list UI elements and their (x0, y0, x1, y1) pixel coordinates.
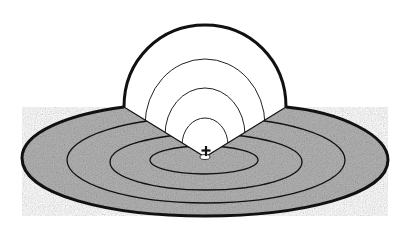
coverage-diagram (0, 0, 408, 229)
diagram-canvas (0, 0, 408, 229)
